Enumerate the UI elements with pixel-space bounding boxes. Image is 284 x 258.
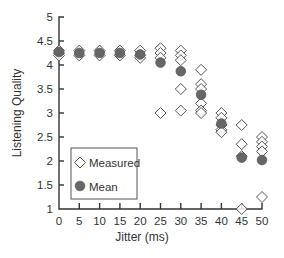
y-tick-label: 3: [47, 107, 53, 119]
measured-diamond-marker: [236, 139, 247, 150]
measured-diamond-marker: [175, 105, 186, 116]
legend-mean-circle-icon: [75, 181, 85, 191]
x-tick-label: 15: [114, 215, 127, 227]
x-tick-label: 20: [134, 215, 147, 227]
x-tick-label: 50: [256, 215, 269, 227]
x-axis-title: Jitter (ms): [115, 230, 168, 244]
y-axis-ticks: 11.522.533.544.55: [37, 11, 64, 215]
mean-circle-marker: [115, 48, 125, 58]
measured-diamond-marker: [196, 64, 207, 75]
measured-diamond-marker: [175, 84, 186, 95]
legend-measured-label: Measured: [89, 157, 140, 169]
mean-circle-marker: [196, 90, 206, 100]
y-tick-label: 4.5: [37, 35, 53, 47]
mean-circle-marker: [75, 48, 85, 58]
legend-mean-label: Mean: [89, 181, 118, 193]
mean-circle-marker: [156, 58, 166, 68]
y-tick-label: 4: [47, 59, 54, 71]
y-tick-label: 2: [47, 155, 53, 167]
x-axis-ticks: 05101520253035404550: [56, 203, 269, 227]
scatter-chart: 11.522.533.544.55 05101520253035404550 J…: [0, 0, 284, 258]
y-tick-label: 2.5: [37, 131, 53, 143]
x-tick-label: 30: [174, 215, 187, 227]
y-tick-label: 1.5: [37, 179, 53, 191]
measured-diamond-marker: [155, 108, 166, 119]
mean-circle-marker: [237, 153, 247, 163]
mean-circle-marker: [135, 50, 145, 60]
y-tick-label: 1: [47, 203, 53, 215]
mean-series: [54, 47, 267, 165]
x-tick-label: 40: [215, 215, 228, 227]
x-tick-label: 25: [154, 215, 167, 227]
mean-circle-marker: [257, 155, 267, 165]
x-tick-label: 35: [195, 215, 208, 227]
measured-diamond-marker: [257, 192, 268, 203]
x-tick-label: 10: [93, 215, 106, 227]
measured-diamond-marker: [236, 204, 247, 215]
legend: Measured Mean: [71, 148, 140, 199]
x-tick-label: 0: [56, 215, 62, 227]
mean-circle-marker: [217, 119, 227, 129]
x-tick-label: 45: [235, 215, 248, 227]
y-tick-label: 3.5: [37, 83, 53, 95]
x-tick-label: 5: [76, 215, 82, 227]
measured-diamond-marker: [236, 120, 247, 131]
y-tick-label: 5: [47, 11, 53, 23]
mean-circle-marker: [176, 66, 186, 76]
y-axis-title: Listening Quality: [10, 69, 24, 158]
mean-circle-marker: [54, 47, 64, 57]
mean-circle-marker: [95, 48, 105, 58]
